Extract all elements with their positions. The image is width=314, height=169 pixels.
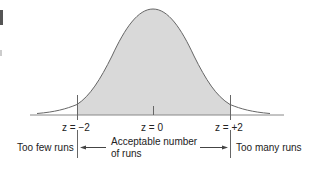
right-arrow-head: [222, 146, 228, 150]
acceptable-region-shade: [77, 9, 230, 115]
acceptable-runs-label-line2: of runs: [111, 148, 142, 159]
left-arrow-head: [80, 146, 86, 150]
acceptable-runs-label-line1: Acceptable number: [111, 136, 197, 147]
too-many-runs-label: Too many runs: [236, 142, 302, 153]
z-plus-2-label: z = +2: [215, 122, 243, 133]
too-few-runs-label: Too few runs: [17, 142, 74, 153]
z-zero-label: z = 0: [141, 122, 163, 133]
z-minus-2-label: z = −2: [62, 122, 90, 133]
